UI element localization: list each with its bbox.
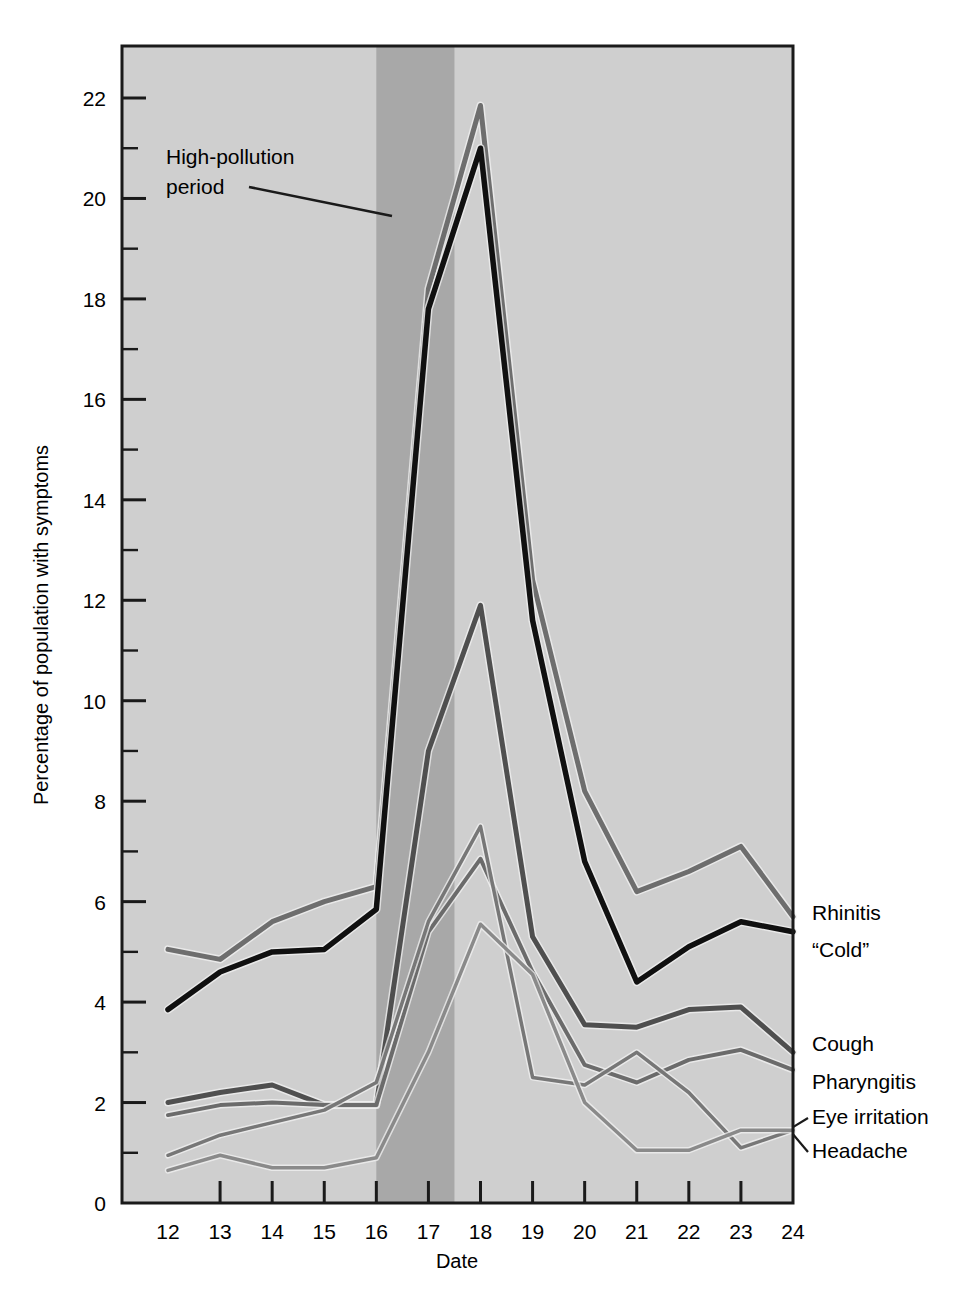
line-chart-svg: 0246810121416182022 12131415161718192021… [0,0,960,1296]
x-tick-label: 16 [365,1220,388,1243]
x-tick-label: 14 [260,1220,284,1243]
legend-label: Headache [812,1139,908,1162]
y-tick-label: 6 [94,891,106,914]
y-tick-label: 14 [83,489,107,512]
x-tick-label: 18 [469,1220,492,1243]
y-tick-label: 12 [83,589,106,612]
x-tick-label: 20 [573,1220,596,1243]
x-tick-label: 12 [156,1220,179,1243]
legend-label: Rhinitis [812,901,881,924]
y-tick-label: 4 [94,991,106,1014]
y-tick-label: 0 [94,1192,106,1215]
y-tick-label: 8 [94,790,106,813]
y-axis-title: Percentage of population with symptoms [30,445,52,805]
x-tick-label: 17 [417,1220,440,1243]
x-tick-label: 21 [625,1220,648,1243]
x-tick-label: 19 [521,1220,544,1243]
legend-label: Pharyngitis [812,1070,916,1093]
legend-label: Eye irritation [812,1105,929,1128]
x-tick-label: 22 [677,1220,700,1243]
chart-figure: 0246810121416182022 12131415161718192021… [0,0,960,1296]
legend-label: “Cold” [812,938,869,961]
x-tick-label: 13 [208,1220,231,1243]
x-tick-label: 23 [729,1220,752,1243]
x-tick-label: 15 [313,1220,336,1243]
x-axis-title: Date [436,1250,478,1272]
y-tick-label: 2 [94,1092,106,1115]
y-tick-label: 20 [83,187,106,210]
x-tick-label: 24 [781,1220,805,1243]
legend-label: Cough [812,1032,874,1055]
y-tick-label: 22 [83,87,106,110]
y-tick-label: 18 [83,288,106,311]
y-tick-label: 16 [83,388,106,411]
annotation-line-2: period [166,175,224,198]
y-tick-label: 10 [83,690,106,713]
annotation-line-1: High-pollution [166,145,294,168]
